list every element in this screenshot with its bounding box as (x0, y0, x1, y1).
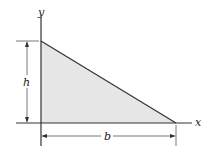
triangle-diagram: y x h b (0, 0, 212, 159)
b-arrow-left-icon (41, 134, 47, 138)
y-axis-label: y (37, 6, 45, 19)
h-arrow-top-icon (25, 41, 29, 47)
diagram-canvas: y x h b (0, 0, 212, 159)
x-axis-label: x (195, 116, 202, 129)
b-arrow-right-icon (170, 134, 176, 138)
base-label: b (104, 130, 111, 143)
h-arrow-bottom-icon (25, 117, 29, 123)
height-label: h (23, 76, 30, 89)
